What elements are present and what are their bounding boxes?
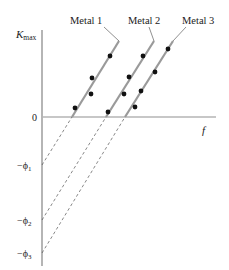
metal-2-extrapolation: [42, 117, 106, 220]
metal-3-label: Metal 3: [182, 15, 214, 26]
metal-2-point: [141, 54, 146, 59]
metal-2-point: [127, 75, 132, 80]
x-axis-label: f: [202, 124, 207, 136]
metal-2-leader: [149, 27, 154, 41]
photoelectric-chart: Kmax f 0 −ϕ1 −ϕ2 −ϕ3 Metal 1 Me: [0, 0, 229, 270]
metal-1-point: [73, 106, 78, 111]
metal-2-point: [106, 110, 111, 115]
metal-3-leader: [173, 27, 186, 41]
metal-1-point: [108, 54, 113, 59]
metal-1-leader: [104, 27, 119, 41]
metal-3-point: [153, 70, 158, 75]
metal-1-label: Metal 1: [70, 15, 102, 26]
metal-3-extrapolation: [42, 117, 125, 253]
metal-2-label: Metal 2: [128, 15, 160, 26]
intercept-label-phi2: −ϕ2: [17, 215, 32, 228]
metal-2-point: [122, 92, 127, 97]
metal-1-point: [89, 92, 94, 97]
intercept-label-phi1: −ϕ1: [17, 160, 32, 173]
metal-3-point: [166, 47, 171, 52]
y-axis-label: Kmax: [15, 28, 37, 42]
metal-3-line: [125, 41, 173, 117]
origin-label: 0: [32, 112, 37, 123]
metal-1-extrapolation: [42, 117, 72, 165]
intercept-label-phi3: −ϕ3: [17, 248, 32, 261]
metal-1-point: [90, 76, 95, 81]
metal-3-point: [139, 89, 144, 94]
metal-3-point: [133, 105, 138, 110]
